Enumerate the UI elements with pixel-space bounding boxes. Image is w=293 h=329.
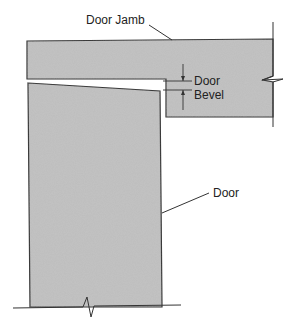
door-bevel-label-line1: Door: [194, 75, 220, 87]
door-bevel-diagram: [0, 0, 293, 329]
door-bevel-label-line2: Bevel: [194, 89, 224, 101]
door-label: Door: [213, 187, 239, 199]
door-jamb-label: Door Jamb: [86, 14, 145, 26]
door-panel: [28, 83, 162, 307]
door-leader: [162, 193, 209, 213]
door-jamb-leader: [149, 25, 172, 40]
